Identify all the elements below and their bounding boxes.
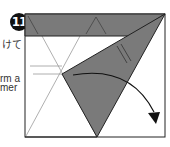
- origami-fold-diagram: [0, 0, 170, 147]
